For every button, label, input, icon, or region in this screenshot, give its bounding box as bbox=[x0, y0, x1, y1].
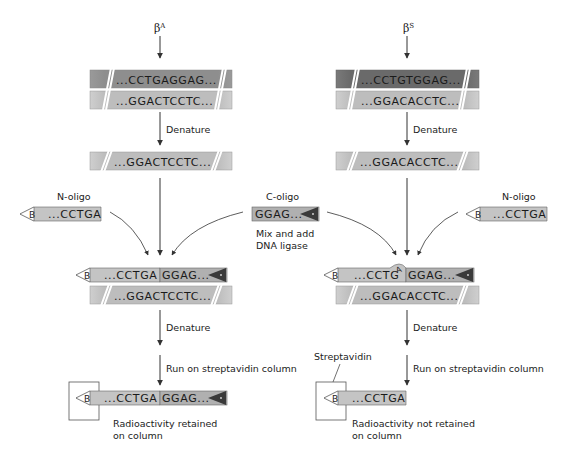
result-n-seq: ...CCTGA bbox=[352, 392, 405, 405]
curved-arrow bbox=[418, 212, 458, 255]
biotin-glyph: B bbox=[84, 394, 90, 404]
result-text: Radioactivity retained bbox=[113, 418, 217, 429]
step-denature: Denature bbox=[166, 322, 210, 333]
allele-label-beta-a: βA bbox=[154, 22, 166, 35]
ligated-template-seq: ...GGACTCCTC... bbox=[114, 290, 211, 303]
duplex-bottom-seq: ...GGACACCTC... bbox=[361, 95, 460, 108]
ligation-assay-diagram: βA ...CCTGAGGAG... ...GGACTCCTC... Denat… bbox=[0, 0, 566, 456]
result-n-seq: ...CCTGA bbox=[104, 392, 157, 405]
c-oligo-center: C-oligo GGAG... Mix and add DNA ligase bbox=[252, 191, 319, 251]
result-text: on column bbox=[352, 430, 402, 441]
genomic-duplex: ...CCTGTGGAG... ...GGACACCTC... bbox=[336, 68, 479, 110]
mismatched-product: B ...CCTG A GGAG... ...GGACACCTC... bbox=[324, 264, 479, 306]
curved-arrow bbox=[110, 212, 148, 255]
genomic-duplex: ...CCTGAGGAG... ...GGACTCCTC... bbox=[90, 68, 232, 110]
streptavidin-label: Streptavidin bbox=[314, 351, 372, 362]
mix-text: DNA ligase bbox=[256, 240, 308, 251]
n-oligo: B ...CCTGA bbox=[20, 207, 101, 221]
n-oligo-label: N-oligo bbox=[502, 191, 536, 202]
result-text: Radioactivity not retained bbox=[352, 418, 475, 429]
column-result-not-retained: B ...CCTGA bbox=[316, 382, 406, 420]
step-denature: Denature bbox=[413, 124, 457, 135]
step-denature: Denature bbox=[166, 124, 210, 135]
biotin-glyph: B bbox=[29, 210, 35, 220]
duplex-top-seq: ...CCTGAGGAG... bbox=[116, 74, 217, 87]
ligated-template-seq: ...GGACACCTC... bbox=[360, 290, 459, 303]
mix-text: Mix and add bbox=[256, 228, 314, 239]
ligated-product: B ...CCTGA GGAG... ...GGACTCCTC... bbox=[76, 268, 232, 306]
c-oligo-seq: GGAG... bbox=[255, 208, 303, 221]
allele-label-beta-s: βS bbox=[403, 22, 414, 35]
n-oligo: B ...CCTGA bbox=[466, 207, 547, 221]
duplex-top-seq: ...CCTGTGGAG... bbox=[361, 74, 461, 87]
step-denature: Denature bbox=[413, 322, 457, 333]
ligated-n-seq: ...CCTG bbox=[354, 269, 399, 282]
right-column-hbs: βS ...CCTGTGGAG... ...GGACACCTC... Denat… bbox=[314, 22, 547, 441]
single-strand-template: ...GGACTCCTC... bbox=[90, 150, 232, 172]
n-oligo-seq: ...CCTGA bbox=[493, 208, 546, 221]
curved-arrow bbox=[172, 212, 243, 255]
n-oligo-seq: ...CCTGA bbox=[48, 208, 101, 221]
biotin-glyph: B bbox=[475, 210, 481, 220]
template-seq: ...GGACTCCTC... bbox=[114, 156, 211, 169]
template-seq: ...GGACACCTC... bbox=[360, 156, 459, 169]
leader-line bbox=[333, 364, 340, 382]
step-column: Run on streptavidin column bbox=[413, 363, 544, 374]
c-oligo-label: C-oligo bbox=[266, 191, 299, 202]
ligated-c-seq: GGAG... bbox=[408, 269, 456, 282]
biotin-glyph: B bbox=[332, 394, 338, 404]
column-result-retained: B ...CCTGA GGAG... bbox=[69, 382, 227, 420]
duplex-bottom-seq: ...GGACTCCTC... bbox=[116, 95, 213, 108]
result-c-seq: GGAG... bbox=[162, 392, 210, 405]
biotin-glyph: B bbox=[332, 271, 338, 281]
biotin-glyph: B bbox=[84, 271, 90, 281]
n-oligo-label: N-oligo bbox=[57, 191, 91, 202]
ligated-n-seq: ...CCTGA bbox=[104, 269, 157, 282]
single-strand-template: ...GGACACCTC... bbox=[336, 150, 479, 172]
result-text: on column bbox=[113, 430, 163, 441]
step-column: Run on streptavidin column bbox=[166, 363, 297, 374]
curved-arrow bbox=[327, 212, 396, 255]
ligated-c-seq: GGAG... bbox=[162, 269, 210, 282]
